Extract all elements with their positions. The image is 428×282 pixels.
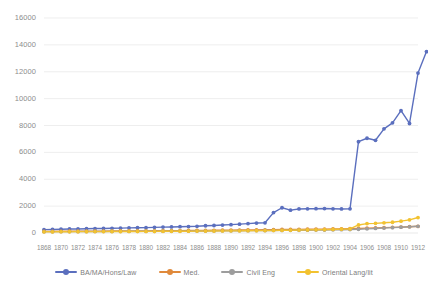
data-point <box>212 224 216 228</box>
data-point <box>399 109 403 113</box>
data-point <box>144 229 148 233</box>
data-point <box>170 229 174 233</box>
data-point <box>297 207 301 211</box>
legend-label: Civil Eng <box>246 269 275 276</box>
data-point <box>119 230 123 234</box>
data-point <box>416 216 420 220</box>
data-point <box>93 230 97 234</box>
data-point <box>272 211 276 215</box>
data-point <box>306 207 310 211</box>
data-point <box>161 225 165 229</box>
data-point <box>68 230 72 234</box>
y-axis-tick-label: 4000 <box>2 174 36 183</box>
data-point <box>365 136 369 140</box>
y-axis-tick-label: 16000 <box>2 13 36 22</box>
data-point <box>391 226 395 230</box>
data-point <box>297 228 301 232</box>
data-point <box>289 208 293 212</box>
legend-label: Med. <box>184 269 200 276</box>
data-point <box>195 224 199 228</box>
data-point <box>382 221 386 225</box>
data-point <box>212 229 216 233</box>
data-point <box>365 227 369 231</box>
data-point <box>153 225 157 229</box>
data-point <box>425 50 428 54</box>
data-point <box>246 222 250 226</box>
data-point <box>127 230 131 234</box>
data-point <box>382 226 386 230</box>
data-point <box>314 207 318 211</box>
legend-item[interactable]: Oriental Lang/lit <box>297 268 373 276</box>
data-point <box>272 229 276 233</box>
data-point <box>408 225 412 229</box>
data-point <box>357 227 361 231</box>
y-axis-tick-label: 12000 <box>2 67 36 76</box>
data-point <box>187 225 191 229</box>
y-axis-tick-label: 2000 <box>2 201 36 210</box>
data-point <box>263 221 267 225</box>
data-point <box>195 229 199 233</box>
data-point <box>357 140 361 144</box>
data-point <box>416 224 420 228</box>
y-axis-tick-label: 6000 <box>2 147 36 156</box>
series-line <box>44 52 427 230</box>
data-point <box>348 207 352 211</box>
data-point <box>374 138 378 142</box>
data-point <box>85 230 89 234</box>
data-point <box>161 229 165 233</box>
x-axis-tick-label: 1912 <box>408 244 428 251</box>
plot-area <box>0 0 428 282</box>
data-point <box>416 71 420 75</box>
data-point <box>408 122 412 126</box>
data-point <box>263 229 267 233</box>
legend-marker-icon <box>55 268 77 276</box>
data-point <box>331 228 335 232</box>
series-lines <box>44 52 427 232</box>
data-point <box>280 228 284 232</box>
legend-label: Oriental Lang/lit <box>322 269 373 276</box>
legend-item[interactable]: Civil Eng <box>221 268 275 276</box>
data-point <box>348 227 352 231</box>
data-point <box>59 230 63 234</box>
data-point <box>382 127 386 131</box>
data-point <box>255 229 259 233</box>
data-point <box>229 229 233 233</box>
data-point <box>314 228 318 232</box>
data-point <box>110 230 114 234</box>
data-point <box>136 230 140 234</box>
data-point <box>153 229 157 233</box>
data-point <box>255 221 259 225</box>
data-point <box>408 218 412 222</box>
data-point <box>323 228 327 232</box>
data-point <box>102 230 106 234</box>
y-axis-tick-label: 10000 <box>2 94 36 103</box>
data-point <box>221 223 225 227</box>
data-point <box>340 227 344 231</box>
chart-legend: BA/MA/Hons/LawMed.Civil EngOriental Lang… <box>0 262 428 282</box>
legend-marker-icon <box>159 268 181 276</box>
data-point <box>306 228 310 232</box>
data-point <box>76 230 80 234</box>
data-point <box>204 229 208 233</box>
data-point <box>374 221 378 225</box>
line-chart: 0200040006000800010000120001400016000 18… <box>0 0 428 282</box>
data-point <box>246 229 250 233</box>
data-point <box>323 207 327 211</box>
legend-item[interactable]: Med. <box>159 268 200 276</box>
data-point <box>42 230 46 234</box>
data-point <box>204 224 208 228</box>
data-point <box>238 222 242 226</box>
data-point <box>289 228 293 232</box>
data-point <box>170 225 174 229</box>
legend-marker-icon <box>297 268 319 276</box>
legend-item[interactable]: BA/MA/Hons/Law <box>55 268 136 276</box>
data-point <box>357 223 361 227</box>
data-point <box>238 229 242 233</box>
y-axis-tick-label: 0 <box>2 228 36 237</box>
legend-label: BA/MA/Hons/Law <box>80 269 136 276</box>
data-point <box>178 229 182 233</box>
data-point <box>280 206 284 210</box>
data-point <box>221 229 225 233</box>
data-point <box>391 220 395 224</box>
data-point <box>187 229 191 233</box>
